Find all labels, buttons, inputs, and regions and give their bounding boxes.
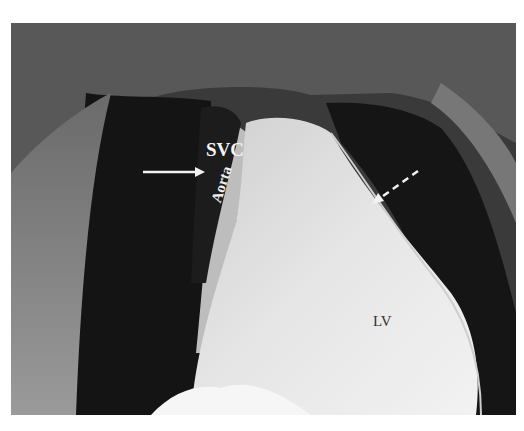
- photo-illustration: [11, 23, 516, 415]
- dissection-photo: [11, 23, 516, 415]
- svc-label: SVC: [206, 140, 244, 159]
- lv-label: LV: [373, 314, 392, 329]
